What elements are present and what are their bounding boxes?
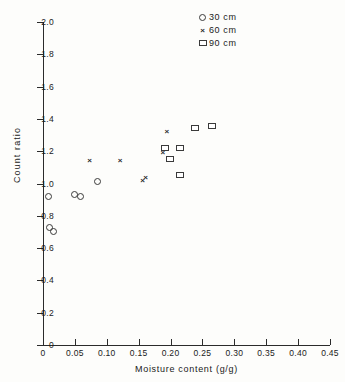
- cross-glyph: ×: [199, 27, 206, 34]
- scatter-plot: 00.20.40.60.81.01.21.41.61.82.0 00.050.1…: [0, 0, 345, 382]
- data-point-square: [166, 156, 174, 162]
- y-tick-label: 1.2: [28, 147, 54, 156]
- legend-item-60-cm: ×60 cm: [196, 24, 237, 36]
- y-tick-label: 0.4: [28, 276, 54, 285]
- data-point-square: [161, 145, 169, 151]
- x-tick: [266, 339, 267, 345]
- circle-glyph: [199, 14, 206, 21]
- x-tick: [330, 339, 331, 345]
- data-point-square: [176, 145, 184, 151]
- data-point-square: [191, 125, 199, 131]
- legend-label: 60 cm: [209, 25, 237, 35]
- y-tick-label: 1.8: [28, 50, 54, 59]
- x-tick-label: 0.45: [310, 349, 345, 358]
- y-tick-label: 0.6: [28, 244, 54, 253]
- legend-item-30-cm: 30 cm: [196, 11, 237, 23]
- data-point-circle: [45, 193, 52, 200]
- legend-square-icon: [196, 38, 209, 48]
- data-point-circle: [50, 228, 57, 235]
- data-point-cross: ×: [163, 128, 170, 135]
- data-point-cross: ×: [142, 174, 149, 181]
- x-tick: [75, 339, 76, 345]
- legend-label: 30 cm: [209, 12, 237, 22]
- x-tick: [107, 339, 108, 345]
- y-tick-label: 1.0: [28, 180, 54, 189]
- data-point-circle: [94, 178, 101, 185]
- y-tick-label: 1.6: [28, 83, 54, 92]
- square-glyph: [199, 40, 207, 46]
- legend-circle-icon: [196, 12, 209, 22]
- y-tick-label: 1.4: [28, 115, 54, 124]
- x-tick: [202, 339, 203, 345]
- data-point-cross: ×: [86, 157, 93, 164]
- legend-label: 90 cm: [209, 38, 237, 48]
- y-tick-label: 2.0: [28, 18, 54, 27]
- x-tick: [43, 339, 44, 345]
- chart-legend: 30 cm×60 cm90 cm: [196, 11, 237, 50]
- x-axis-title: Moisture content (g/g): [43, 364, 330, 374]
- legend-item-90-cm: 90 cm: [196, 37, 237, 49]
- data-point-square: [208, 123, 216, 129]
- legend-cross-icon: ×: [196, 25, 209, 35]
- x-tick: [139, 339, 140, 345]
- data-point-square: [176, 172, 184, 178]
- x-tick: [171, 339, 172, 345]
- x-tick: [234, 339, 235, 345]
- y-tick-label: 0.2: [28, 309, 54, 318]
- y-tick-label: 0.8: [28, 212, 54, 221]
- data-point-circle: [77, 193, 84, 200]
- x-axis-line: [43, 345, 330, 346]
- data-point-cross: ×: [117, 157, 124, 164]
- x-tick: [298, 339, 299, 345]
- chart-root: 00.20.40.60.81.01.21.41.61.82.0 00.050.1…: [0, 0, 345, 382]
- y-axis-title: Count ratio: [12, 115, 22, 195]
